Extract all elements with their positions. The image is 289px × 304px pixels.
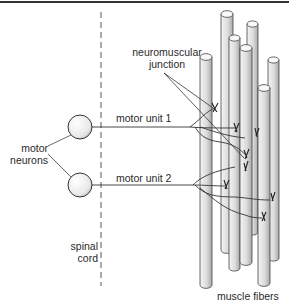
motor-unit-1-label: motor unit 1 bbox=[116, 112, 171, 124]
muscle-fiber bbox=[200, 54, 212, 289]
label-line: neuromuscular bbox=[122, 46, 212, 58]
motor-neurons-label: motor neurons bbox=[8, 142, 48, 166]
muscle-fiber bbox=[258, 85, 270, 287]
muscle-fiber bbox=[229, 35, 240, 271]
label-line: cord bbox=[62, 252, 98, 264]
label-line: junction bbox=[122, 58, 212, 70]
label-line: neurons bbox=[8, 154, 48, 166]
label-line: motor bbox=[8, 142, 48, 154]
motor-unit-2-label: motor unit 2 bbox=[116, 172, 171, 184]
label-line: spinal bbox=[62, 240, 98, 252]
motor-unit-diagram: neuromuscular junction motor unit 1 moto… bbox=[0, 0, 289, 304]
spinal-cord-label: spinal cord bbox=[62, 240, 98, 264]
motor-neuron-1 bbox=[68, 115, 92, 139]
neuromuscular-junction-label: neuromuscular junction bbox=[122, 46, 212, 70]
motor-neurons-leader-2 bbox=[48, 154, 71, 177]
motor-neurons-leader-1 bbox=[48, 135, 71, 146]
motor-neuron-2 bbox=[68, 173, 92, 197]
muscle-fibers-label: muscle fibers bbox=[217, 290, 279, 302]
